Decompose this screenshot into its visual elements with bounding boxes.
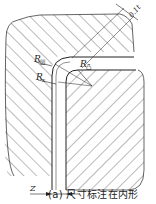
label-clearance: 0.1t — [127, 3, 142, 19]
svg-text:Z: Z — [29, 184, 36, 193]
svg-text:凸: 凸 — [86, 64, 92, 71]
die-cross-section: R 凹 R x R 凸 0.1t Z — [0, 0, 156, 204]
svg-text:凹: 凹 — [40, 59, 46, 66]
punch-block — [66, 70, 144, 190]
figure-caption: (a) 尺寸标注在内形 — [48, 186, 156, 201]
diagram-canvas: R 凹 R x R 凸 0.1t Z (a) 尺寸标注在内形 — [0, 0, 156, 204]
label-gap-z: Z — [29, 184, 36, 193]
svg-text:0.1t: 0.1t — [127, 3, 142, 19]
